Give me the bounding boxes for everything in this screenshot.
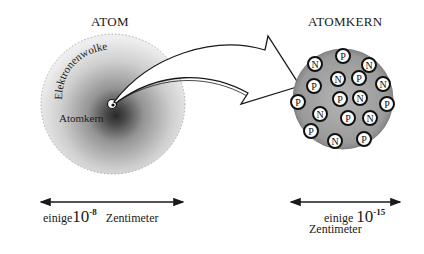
svg-text:N: N <box>356 93 363 104</box>
svg-text:N: N <box>316 109 323 120</box>
neutron: N <box>331 72 345 86</box>
nucleus-title: ATOMKERN <box>308 14 382 30</box>
proton: P <box>380 97 394 111</box>
proton: P <box>304 124 318 138</box>
svg-text:P: P <box>308 126 314 137</box>
svg-text:N: N <box>365 60 372 71</box>
svg-text:N: N <box>334 74 341 85</box>
proton: P <box>352 71 366 85</box>
neutron: N <box>308 57 322 71</box>
svg-text:P: P <box>295 97 301 108</box>
nucleus-scale-unit: Zentimeter <box>309 222 362 237</box>
proton: P <box>291 95 305 109</box>
proton: P <box>336 49 350 63</box>
scale-exponent: -8 <box>89 207 97 217</box>
neutron: N <box>328 134 342 148</box>
svg-text:P: P <box>337 94 343 105</box>
nucleus-label: Atomkern <box>59 112 104 124</box>
neutron: N <box>362 58 376 72</box>
scale-prefix: einige <box>43 211 72 225</box>
neutron: N <box>353 91 367 105</box>
neutron: N <box>376 77 390 91</box>
neutron: N <box>313 107 327 121</box>
proton: P <box>307 79 321 93</box>
scale-unit: Zentimeter <box>106 211 159 225</box>
atom-scale-label: einige10-8 Zentimeter <box>43 207 158 227</box>
svg-text:P: P <box>311 81 317 92</box>
proton: P <box>341 111 355 125</box>
proton: P <box>357 132 371 146</box>
svg-text:N: N <box>331 136 338 147</box>
atom-title: ATOM <box>91 14 129 30</box>
svg-text:N: N <box>379 79 386 90</box>
scale-exponent: -15 <box>373 207 385 217</box>
neutron: N <box>363 111 377 125</box>
svg-text:N: N <box>311 59 318 70</box>
svg-text:P: P <box>356 73 362 84</box>
svg-text:N: N <box>366 113 373 124</box>
proton: P <box>333 92 347 106</box>
scale-base: 10 <box>72 207 89 226</box>
svg-text:P: P <box>361 134 367 145</box>
svg-text:P: P <box>384 99 390 110</box>
svg-text:P: P <box>345 113 351 124</box>
svg-text:P: P <box>340 51 346 62</box>
